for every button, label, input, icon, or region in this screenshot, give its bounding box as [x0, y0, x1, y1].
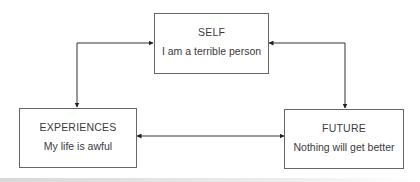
- node-self: SELF I am a terrible person: [154, 13, 269, 74]
- node-experiences-title: EXPERIENCES: [20, 121, 136, 133]
- arrow-self-future: [269, 43, 345, 108]
- node-self-text: I am a terrible person: [155, 45, 268, 57]
- node-experiences-text: My life is awful: [20, 140, 136, 152]
- arrow-self-experiences: [77, 43, 153, 107]
- node-future: FUTURE Nothing will get better: [284, 109, 404, 169]
- node-experiences: EXPERIENCES My life is awful: [19, 108, 137, 168]
- bottom-divider: [0, 178, 420, 182]
- node-self-title: SELF: [155, 26, 268, 38]
- node-future-text: Nothing will get better: [285, 141, 403, 153]
- node-future-title: FUTURE: [285, 122, 403, 134]
